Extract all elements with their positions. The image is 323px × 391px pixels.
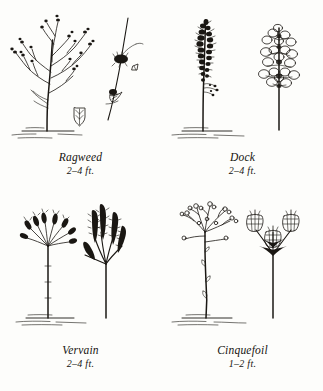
vervain-detail-spikes	[83, 204, 126, 260]
cinquefoil-main-plant	[180, 202, 238, 318]
vervain-spike-detail	[83, 204, 126, 318]
dock-caption: Dock 2–4 ft.	[162, 150, 323, 177]
cinquefoil-height: 1–2 ft.	[162, 357, 323, 370]
cinquefoil-ground-line	[172, 315, 246, 325]
vervain-illustration	[0, 186, 161, 336]
vervain-name: Vervain	[0, 343, 161, 357]
dock-height: 2–4 ft.	[162, 164, 323, 177]
dock-main-plant	[195, 19, 219, 131]
cinquefoil-flower-buds	[180, 202, 238, 240]
dock-name: Dock	[162, 150, 323, 164]
plant-panel-dock: Dock 2–4 ft.	[162, 0, 323, 195]
ragweed-main-plant	[10, 15, 94, 131]
plant-panel-vervain: Vervain 2–4 ft.	[0, 186, 161, 381]
cinquefoil-branches	[183, 206, 231, 242]
ragweed-height: 2–4 ft.	[0, 164, 161, 177]
dock-ground-line	[172, 128, 244, 138]
cinquefoil-capsule-detail	[247, 210, 299, 318]
vervain-main-plant	[19, 209, 78, 318]
plant-panel-ragweed: Ragweed 2–4 ft.	[0, 0, 161, 195]
ragweed-detail-sketch	[106, 18, 143, 120]
cinquefoil-name: Cinquefoil	[162, 343, 323, 357]
plant-panel-cinquefoil: Cinquefoil 1–2 ft.	[162, 186, 323, 381]
ragweed-leaf-detail	[74, 108, 85, 126]
capsule-left	[247, 210, 263, 232]
illustration-page: Ragweed 2–4 ft.	[0, 0, 323, 391]
dock-illustration	[162, 0, 323, 150]
cinquefoil-caption: Cinquefoil 1–2 ft.	[162, 343, 323, 370]
cinquefoil-illustration	[162, 186, 323, 336]
dock-lower-branchlets	[204, 84, 219, 97]
ragweed-caption: Ragweed 2–4 ft.	[0, 150, 161, 177]
ragweed-name: Ragweed	[0, 150, 161, 164]
vervain-caption: Vervain 2–4 ft.	[0, 343, 161, 370]
vervain-ground-line	[16, 315, 86, 325]
capsule-right	[283, 210, 299, 232]
dock-seed-detail	[259, 24, 300, 130]
vervain-height: 2–4 ft.	[0, 357, 161, 370]
ragweed-illustration	[0, 0, 161, 150]
